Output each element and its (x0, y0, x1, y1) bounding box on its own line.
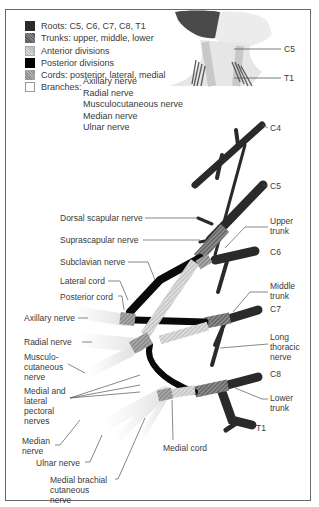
posterior-divisions (130, 258, 205, 392)
label-c4: C4 (270, 123, 281, 133)
label-c7: C7 (270, 304, 281, 314)
label-c6: C6 (270, 247, 281, 257)
label-posterior-cord: Posterior cord (60, 292, 113, 302)
trunks (195, 228, 230, 392)
label-long-thoracic: Long thoracic nerve (270, 332, 308, 362)
label-medial-brachial: Medial brachial cutaneous nerve (50, 475, 112, 505)
label-t1: T1 (256, 423, 266, 433)
label-radial: Radial nerve (24, 337, 72, 347)
label-ulnar: Ulnar nerve (36, 458, 80, 468)
label-c5: C5 (270, 181, 281, 191)
label-medial-cord: Medial cord (163, 443, 207, 453)
inset-label-c5: C5 (284, 44, 295, 54)
label-upper-trunk: Upper trunk (270, 216, 304, 236)
inset-neck-illustration (170, 11, 281, 87)
label-lateral-cord: Lateral cord (60, 276, 105, 286)
label-dorsal-scapular: Dorsal scapular nerve (60, 213, 143, 223)
inset-label-t1: T1 (284, 73, 294, 83)
label-median: Median nerve (22, 436, 52, 456)
label-musculocutaneous: Musculo-cutaneous nerve (24, 352, 64, 382)
label-pectoral: Medial and lateral pectoral nerves (24, 386, 68, 426)
label-axillary: Axillary nerve (24, 313, 75, 323)
label-lower-trunk: Lower trunk (270, 393, 302, 413)
label-subclavian: Subclavian nerve (60, 257, 125, 267)
label-suprascapular: Suprascapular nerve (60, 235, 138, 245)
label-middle-trunk: Middle trunk (270, 281, 304, 301)
label-c8: C8 (270, 369, 281, 379)
